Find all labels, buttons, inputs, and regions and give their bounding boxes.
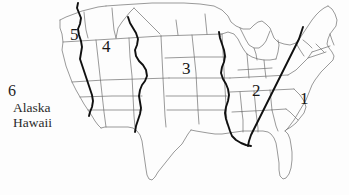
region-label-6: 6 bbox=[8, 82, 69, 100]
region-label-5: 5 bbox=[70, 26, 79, 43]
legend-hawaii: Hawaii bbox=[13, 115, 69, 130]
boundary-4-3 bbox=[128, 17, 147, 132]
region-label-4: 4 bbox=[102, 38, 111, 55]
region-6-legend: 6 Alaska Hawaii bbox=[7, 82, 69, 130]
boundary-3-2 bbox=[219, 32, 251, 146]
state-outlines bbox=[60, 3, 337, 180]
region-label-2: 2 bbox=[252, 82, 261, 99]
map-figure: 5 4 3 2 1 6 Alaska Hawaii bbox=[0, 0, 349, 195]
region-label-1: 1 bbox=[300, 90, 309, 107]
region-label-3: 3 bbox=[182, 60, 191, 77]
legend-alaska: Alaska bbox=[13, 100, 69, 115]
